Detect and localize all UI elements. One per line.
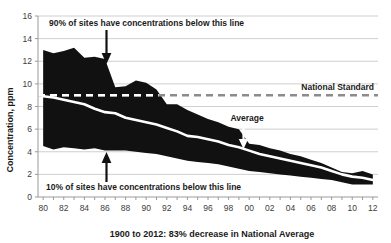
x-tick-label-94: 94 (183, 203, 193, 213)
annotation-lower-percentile-label: 10% of sites have concentrations below t… (46, 182, 241, 192)
x-tick-label-98: 98 (224, 203, 234, 213)
national-standard-label: National Standard (301, 82, 374, 92)
y-tick-label-2: 2 (27, 169, 32, 179)
y-tick-label-16: 16 (23, 11, 33, 21)
x-tick-label-06: 06 (306, 203, 316, 213)
x-tick-label-02: 02 (265, 203, 275, 213)
y-tick-label-4: 4 (27, 147, 32, 157)
x-axis-caption: 1900 to 2012: 83% decrease in National A… (110, 229, 314, 239)
x-tick-label-80: 80 (38, 203, 48, 213)
y-tick-label-6: 6 (27, 124, 32, 134)
x-tick-label-92: 92 (162, 203, 172, 213)
x-tick-label-04: 04 (286, 203, 296, 213)
x-tick-label-90: 90 (141, 203, 151, 213)
y-tick-label-0: 0 (27, 192, 32, 202)
x-tick-label-12: 12 (368, 203, 378, 213)
chart-container: 0246810121416 80828486889092949698000204… (0, 0, 391, 243)
y-tick-label-14: 14 (23, 34, 33, 44)
x-tick-label-08: 08 (327, 203, 337, 213)
x-tick-label-82: 82 (59, 203, 69, 213)
x-tick-label-00: 00 (244, 203, 254, 213)
y-tick-label-10: 10 (23, 79, 33, 89)
x-tick-label-86: 86 (100, 203, 110, 213)
x-tick-label-96: 96 (203, 203, 213, 213)
y-tick-label-8: 8 (27, 102, 32, 112)
x-tick-label-84: 84 (80, 203, 90, 213)
y-tick-label-12: 12 (23, 56, 33, 66)
annotation-upper-percentile-label: 90% of sites have concentrations below t… (49, 18, 244, 28)
concentration-trend-chart: 0246810121416 80828486889092949698000204… (0, 0, 391, 243)
y-axis-title: Concentration, ppm (5, 88, 15, 173)
annotation-average-label: Average (230, 113, 264, 123)
x-tick-label-88: 88 (121, 203, 131, 213)
x-tick-label-10: 10 (348, 203, 358, 213)
